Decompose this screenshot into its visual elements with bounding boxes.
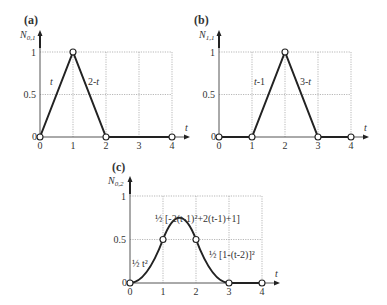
x-tick-2-a: 2 [104, 140, 109, 151]
segment-label-c-3: ½ [1-(t-2)]² [209, 249, 255, 261]
segment-label-b-2: 3-t [300, 76, 311, 87]
knot-a-0 [37, 134, 43, 140]
grid-a [40, 52, 172, 137]
knot-b-1 [249, 134, 255, 140]
x-tick-0-b: 0 [217, 140, 222, 151]
x-tick-2-b: 2 [283, 140, 288, 151]
x-tick-4-b: 4 [349, 140, 354, 151]
y-tick-0-a: 0 [32, 131, 37, 142]
panel-label-c: (c) [112, 160, 125, 174]
knot-c-0 [127, 280, 133, 286]
y-tick-1-c: 1 [121, 191, 126, 202]
x-tick-1-b: 1 [250, 140, 255, 151]
panel-b: (b) N1,1 t 1 0.5 0 0 1 2 3 4 t-1 3-t [194, 13, 369, 151]
y-axis-label-a: N0,1 [19, 29, 35, 42]
knot-a-2 [103, 134, 109, 140]
x-arrowhead-b [363, 135, 369, 140]
knot-c-1 [160, 237, 166, 243]
x-tick-2-c: 2 [194, 286, 199, 297]
panel-label-a: (a) [24, 13, 38, 27]
y-tick-1-b: 1 [210, 47, 215, 58]
y-arrowhead-b [217, 30, 222, 36]
x-axis-label-b: t [364, 122, 367, 133]
y-tick-1-a: 1 [31, 47, 36, 58]
y-tick-0-c: 0 [122, 277, 127, 288]
y-tick-0.5-c: 0.5 [114, 234, 127, 245]
segment-label-a-2: 2-t [88, 76, 99, 87]
x-tick-4-c: 4 [260, 286, 265, 297]
knot-c-3 [226, 280, 232, 286]
segment-label-c-2: ½ [-2(t-1)²+2(t-1)+1] [155, 213, 240, 225]
knot-c-2 [193, 237, 199, 243]
x-tick-0-a: 0 [38, 140, 43, 151]
x-tick-3-b: 3 [316, 140, 321, 151]
knot-b-3 [315, 134, 321, 140]
x-tick-3-c: 3 [227, 286, 232, 297]
x-axis-label-a: t [185, 122, 188, 133]
y-tick-0.5-a: 0.5 [24, 89, 37, 100]
panel-c: (c) N0,2 t 1 0.5 0 0 1 2 3 4 ½ t² ½ [-2( [107, 160, 280, 297]
knot-a-4 [169, 134, 175, 140]
x-arrowhead-a [184, 135, 190, 140]
y-arrowhead-c [128, 176, 133, 182]
figure: (a) N0,1 t 1 0.5 0 0 1 2 3 4 t [0, 0, 387, 305]
y-tick-0-b: 0 [211, 131, 216, 142]
knot-c-4 [259, 280, 265, 286]
x-tick-1-c: 1 [161, 286, 166, 297]
panel-label-b: (b) [194, 13, 209, 27]
segment-label-a-1: t [50, 76, 53, 87]
knot-a-1 [70, 49, 76, 55]
y-axis-label-c: N0,2 [107, 175, 124, 188]
x-tick-4-a: 4 [170, 140, 175, 151]
knot-b-0 [216, 134, 222, 140]
knot-b-4 [348, 134, 354, 140]
x-axis-label-c: t [275, 268, 278, 279]
x-arrowhead-c [274, 281, 280, 286]
segment-label-c-1: ½ t² [132, 258, 148, 269]
y-arrowhead-a [38, 30, 43, 36]
x-tick-0-c: 0 [128, 286, 133, 297]
y-axis-label-b: N1,1 [198, 29, 214, 42]
panel-a: (a) N0,1 t 1 0.5 0 0 1 2 3 4 t [19, 13, 190, 151]
x-tick-3-a: 3 [137, 140, 142, 151]
grid-b [219, 52, 351, 137]
x-tick-1-a: 1 [71, 140, 76, 151]
knot-b-2 [282, 49, 288, 55]
y-tick-0.5-b: 0.5 [203, 89, 216, 100]
segment-label-b-1: t-1 [254, 76, 265, 87]
